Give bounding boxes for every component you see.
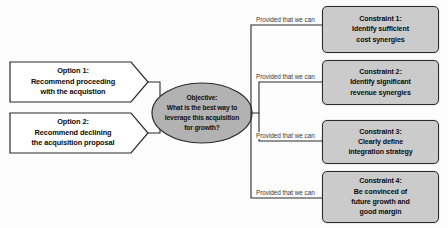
option-2-box[interactable]: Option 2: Recommend declining the acquis… [10, 113, 148, 153]
logic-tree-diagram: Option 1: Recommend proceeding with the … [0, 0, 448, 228]
option-2-label: Option 2: Recommend declining the acquis… [31, 117, 114, 149]
constraint-3-label: Constraint 3: Clearly define integration… [348, 127, 412, 158]
connector-trunk-inner [252, 82, 322, 113]
constraint-1-label: Constraint 1: Identify sufficient cost s… [352, 14, 409, 45]
constraint-3-box[interactable]: Constraint 3: Clearly define integration… [322, 120, 439, 164]
constraint-4-box[interactable]: Constraint 4: Be convinced of future gro… [322, 171, 439, 223]
objective-box[interactable]: Objective: What is the best way to lever… [152, 84, 252, 142]
branch-label-constraint-3: Provided that we can [255, 132, 316, 139]
option-1-label: Option 1: Recommend proceeding with the … [31, 66, 115, 98]
objective-label: Objective: What is the best way to lever… [165, 93, 239, 133]
constraint-1-box[interactable]: Constraint 1: Identify sufficient cost s… [322, 6, 439, 53]
constraint-2-label: Constraint 2: Identify significant reven… [350, 67, 411, 98]
branch-label-constraint-1: Provided that we can [255, 16, 316, 23]
constraint-4-label: Constraint 4: Be convinced of future gro… [351, 176, 410, 217]
option-1-box[interactable]: Option 1: Recommend proceeding with the … [10, 62, 148, 102]
constraint-2-box[interactable]: Constraint 2: Identify significant reven… [322, 60, 439, 105]
connector-branch-constraint-4 [251, 113, 322, 198]
connector-trunk-outer [251, 25, 322, 113]
branch-label-constraint-2: Provided that we can [255, 73, 316, 80]
branch-label-constraint-4: Provided that we can [255, 189, 316, 196]
